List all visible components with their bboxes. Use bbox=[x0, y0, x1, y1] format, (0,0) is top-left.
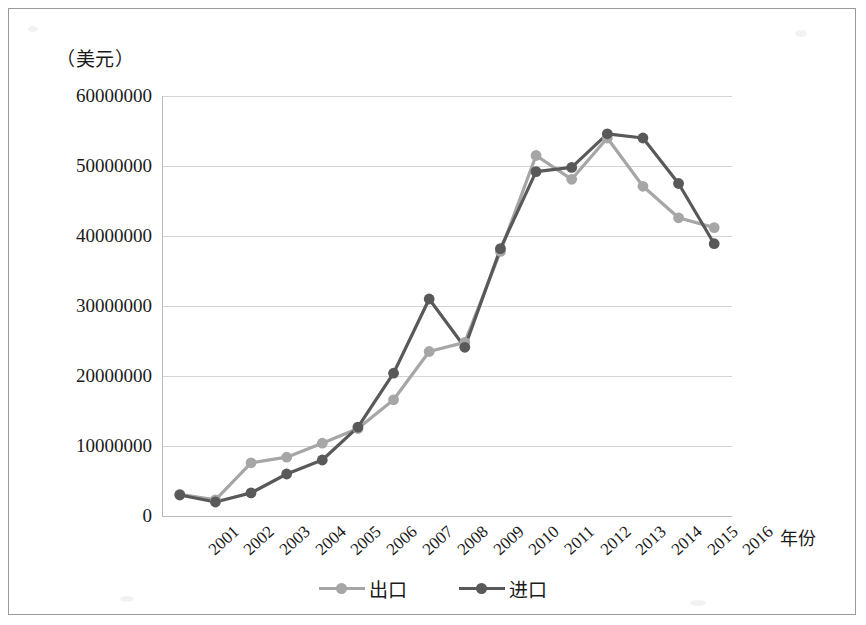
data-point bbox=[281, 469, 292, 480]
scan-artifact bbox=[28, 26, 38, 32]
plot-area bbox=[162, 96, 732, 516]
chart-legend: 出口进口 bbox=[0, 575, 866, 602]
data-point bbox=[566, 162, 577, 173]
data-point bbox=[174, 490, 185, 501]
legend-label: 出口 bbox=[369, 580, 407, 601]
data-point bbox=[246, 488, 257, 499]
x-axis-line bbox=[162, 516, 732, 517]
legend-marker-icon bbox=[319, 583, 365, 594]
y-tick-label: 10000000 bbox=[76, 435, 152, 457]
data-point bbox=[246, 457, 257, 468]
scan-artifact bbox=[795, 30, 807, 37]
y-tick-label: 50000000 bbox=[76, 155, 152, 177]
data-point bbox=[673, 178, 684, 189]
y-tick-label: 30000000 bbox=[76, 295, 152, 317]
data-point bbox=[281, 452, 292, 463]
data-point bbox=[424, 294, 435, 305]
legend-import[interactable]: 进口 bbox=[459, 575, 547, 602]
data-point bbox=[317, 438, 328, 449]
data-series bbox=[162, 96, 732, 516]
data-point bbox=[388, 394, 399, 405]
data-point bbox=[709, 238, 720, 249]
chart-root: （美元） 年份 01000000020000000300000004000000… bbox=[0, 0, 866, 625]
series-line-export bbox=[180, 138, 714, 500]
y-axis-title: （美元） bbox=[56, 44, 134, 71]
y-tick-label: 60000000 bbox=[76, 85, 152, 107]
data-point bbox=[210, 497, 221, 508]
data-point bbox=[353, 422, 364, 433]
data-point bbox=[459, 342, 470, 353]
y-tick-label: 40000000 bbox=[76, 225, 152, 247]
y-tick-label: 0 bbox=[143, 505, 153, 527]
data-point bbox=[602, 128, 613, 139]
data-point bbox=[531, 166, 542, 177]
legend-export[interactable]: 出口 bbox=[319, 575, 407, 602]
data-point bbox=[566, 174, 577, 185]
data-point bbox=[531, 150, 542, 161]
data-point bbox=[673, 212, 684, 223]
x-axis-title: 年份 bbox=[780, 524, 816, 550]
legend-marker-icon bbox=[459, 583, 505, 594]
series-line-import bbox=[180, 134, 714, 502]
data-point bbox=[424, 346, 435, 357]
legend-label: 进口 bbox=[509, 580, 547, 601]
data-point bbox=[317, 455, 328, 466]
data-point bbox=[638, 181, 649, 192]
y-tick-label: 20000000 bbox=[76, 365, 152, 387]
data-point bbox=[495, 243, 506, 254]
data-point bbox=[388, 368, 399, 379]
data-point bbox=[638, 133, 649, 144]
data-point bbox=[709, 222, 720, 233]
